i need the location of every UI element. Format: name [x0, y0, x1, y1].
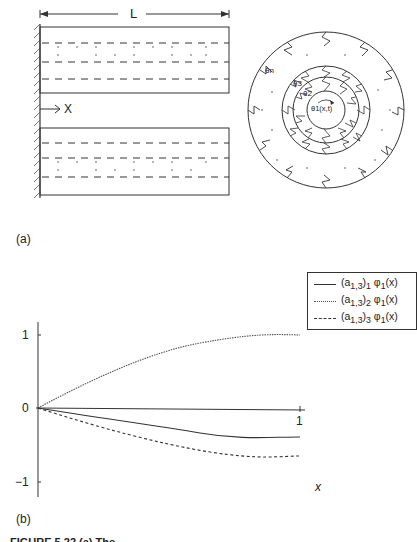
x-axis-label: X — [64, 102, 72, 116]
theta-2-label: θ2 — [303, 89, 312, 98]
theta-n-label: θn — [265, 66, 274, 75]
y-tick-0: 0 — [22, 401, 29, 415]
legend-label: (a1,3)3 φ1(x) — [341, 310, 398, 325]
dashed-line-swatch — [314, 318, 336, 319]
legend-item-series-1: (a1,3)1 φ1(x) — [314, 276, 398, 292]
x-tick-1: 1 — [296, 414, 303, 428]
dotted-line-swatch — [314, 301, 336, 302]
figure-caption: FIGURE 5.22 (a) The — [10, 533, 115, 542]
legend-item-series-3: (a1,3)3 φ1(x) — [314, 310, 398, 326]
chart-legend: (a1,3)1 φ1(x) (a1,3)2 φ1(x) (a1,3)3 φ1(x… — [307, 272, 417, 330]
x-axis-title: x — [315, 480, 321, 494]
theta-1-label: θ1(x,t) — [311, 104, 332, 113]
legend-label: (a1,3)2 φ1(x) — [341, 293, 398, 308]
theta-3-label: θ3 — [293, 79, 302, 88]
figure-a-drawing — [0, 0, 417, 260]
y-tick-1: 1 — [22, 328, 29, 342]
panel-a-label: (a) — [16, 232, 31, 246]
legend-item-series-2: (a1,3)2 φ1(x) — [314, 293, 398, 309]
legend-label: (a1,3)1 φ1(x) — [341, 276, 398, 291]
length-label: L — [130, 6, 137, 21]
solid-line-swatch — [314, 284, 336, 285]
panel-b-label: (b) — [16, 512, 31, 526]
y-tick-neg1: −1 — [15, 475, 29, 489]
